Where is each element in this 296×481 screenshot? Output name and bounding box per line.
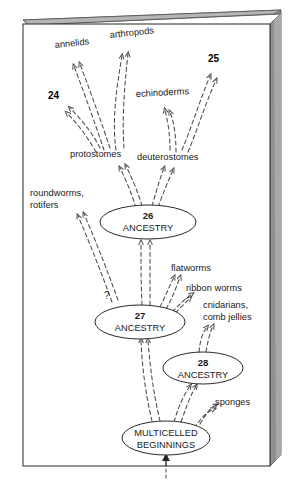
label-rotifers: rotifers: [30, 200, 59, 210]
node-multicelled-beginnings[interactable]: MULTICELLED BEGINNINGS: [122, 421, 210, 455]
node-root-line2: BEGINNINGS: [137, 440, 195, 450]
label-deuterostomes: deuterostomes: [137, 152, 199, 162]
node-27-number: 27: [135, 310, 146, 321]
node-28-ancestry[interactable]: 28 ANCESTRY: [163, 352, 243, 384]
label-callout-24: 24: [48, 90, 60, 101]
node-27-ancestry[interactable]: 27 ANCESTRY: [95, 305, 185, 339]
node-26-number: 26: [143, 210, 154, 221]
label-sponges: sponges: [215, 397, 251, 407]
label-ribbon-worms: ribbon worms: [186, 283, 242, 293]
node-27-word: ANCESTRY: [115, 323, 165, 333]
node-26-ancestry[interactable]: 26 ANCESTRY: [100, 205, 196, 239]
cladogram-svg: 26 ANCESTRY 27 ANCESTRY 28 ANCESTRY MULT…: [0, 0, 296, 481]
label-comb-jellies: comb jellies: [203, 312, 252, 322]
label-cnidarians: cnidarians,: [203, 300, 248, 310]
label-question-mark: ?: [104, 290, 110, 301]
label-callout-25: 25: [208, 53, 220, 64]
label-roundworms: roundworms,: [30, 188, 84, 198]
diagram-canvas: 26 ANCESTRY 27 ANCESTRY 28 ANCESTRY MULT…: [0, 0, 296, 481]
label-protostomes: protostomes: [70, 149, 122, 159]
node-28-number: 28: [198, 357, 209, 368]
node-root-line1: MULTICELLED: [134, 428, 198, 438]
frame-top-highlight: [23, 10, 281, 25]
label-flatworms: flatworms: [171, 263, 211, 273]
node-26-word: ANCESTRY: [123, 223, 173, 233]
node-28-word: ANCESTRY: [178, 370, 228, 380]
